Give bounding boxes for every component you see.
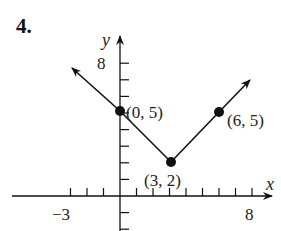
left-branch (72, 68, 120, 111)
x-tick-label-8: 8 (245, 205, 254, 224)
point-3-2 (166, 157, 176, 167)
point-0-5 (115, 106, 125, 116)
x-axis-label: x (265, 174, 274, 194)
y-ticks (120, 63, 129, 229)
right-branch (219, 80, 250, 112)
point-label-6-5: (6, 5) (227, 111, 264, 130)
y-tick-label-8: 8 (97, 54, 106, 73)
point-label-3-2: (3, 2) (144, 171, 181, 190)
right-segment (171, 112, 219, 162)
graph: (0, 5) (3, 2) (6, 5) y x 8 −3 8 (0, 0, 281, 231)
x-tick-label-neg3: −3 (52, 205, 70, 224)
point-label-0-5: (0, 5) (126, 103, 163, 122)
y-axis-label: y (100, 30, 110, 50)
point-6-5 (214, 107, 224, 117)
